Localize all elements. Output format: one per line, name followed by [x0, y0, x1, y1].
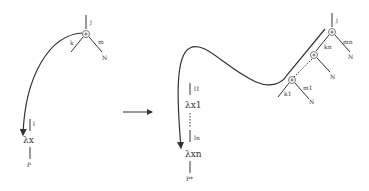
- left-graph: j k m N l λx P: [23, 15, 107, 168]
- label-p: P: [27, 161, 31, 168]
- svg-text:mn: mn: [343, 38, 353, 45]
- dotted-spine: [294, 59, 312, 77]
- svg-text:j: j: [335, 16, 338, 24]
- label-m: m: [98, 38, 104, 45]
- svg-text:ln: ln: [194, 134, 200, 141]
- svg-text:N: N: [348, 53, 353, 60]
- svg-text:N: N: [330, 73, 335, 80]
- leaf-n: N: [102, 54, 107, 61]
- svg-text:N: N: [309, 98, 314, 105]
- lambda-x1: λx1: [185, 100, 202, 110]
- redex-curve: [23, 33, 82, 135]
- label-j: j: [89, 18, 92, 26]
- svg-text:k1: k1: [284, 90, 291, 97]
- svg-text:kn: kn: [324, 43, 332, 50]
- svg-text:l1: l1: [194, 85, 200, 92]
- svg-text:P*: P*: [186, 175, 193, 182]
- diagram-canvas: j k m N l λx P j mn N kn N k1: [0, 0, 369, 191]
- lambda-x: λx: [23, 135, 34, 145]
- svg-text:m1: m1: [303, 84, 313, 91]
- right-graph: j mn N kn N k1 m1 N l1 λx1 ln λxn P*: [178, 13, 353, 182]
- lambda-xn: λxn: [185, 149, 202, 159]
- label-k: k: [70, 39, 74, 46]
- label-l: l: [33, 120, 35, 127]
